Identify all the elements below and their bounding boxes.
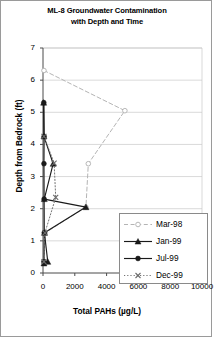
- legend-label: Mar-98: [156, 220, 182, 229]
- y-axis-title: Depth from Bedrock (ft): [14, 98, 24, 194]
- plot-area: 01234567 0200040006000800010000: [1, 1, 212, 337]
- y-tick-label: 6: [19, 76, 35, 84]
- x-axis-title: Total PAHs (µg/L): [1, 306, 212, 316]
- legend-item-mar-98[interactable]: Mar-98: [120, 216, 209, 233]
- legend-marker-open-circle-icon: [120, 216, 156, 233]
- legend-marker-filled-circle-icon: [120, 250, 156, 267]
- legend-label: Dec-99: [156, 271, 183, 280]
- legend-marker-triangle-icon: [120, 233, 156, 250]
- y-tick-label: 7: [19, 44, 35, 52]
- series-jul-99: [41, 100, 46, 264]
- y-tick-label: 1: [19, 237, 35, 245]
- y-tick-label: 0: [19, 269, 35, 277]
- legend-item-jul-99[interactable]: Jul-99: [120, 250, 209, 267]
- chart-legend: Mar-98Jan-99Jul-99Dec-99: [119, 213, 208, 284]
- legend-item-jan-99[interactable]: Jan-99: [120, 233, 209, 250]
- legend-label: Jul-99: [156, 254, 179, 263]
- y-tick-label: 2: [19, 205, 35, 213]
- data-series-layer: [41, 68, 128, 266]
- gridlines: [43, 48, 202, 241]
- legend-marker-x-icon: [120, 267, 156, 284]
- legend-label: Jan-99: [156, 237, 181, 246]
- x-tick-label: 10000: [182, 283, 212, 291]
- chart-figure: ML-8 Groundwater Contamination with Dept…: [0, 0, 212, 337]
- legend-item-dec-99[interactable]: Dec-99: [120, 267, 209, 284]
